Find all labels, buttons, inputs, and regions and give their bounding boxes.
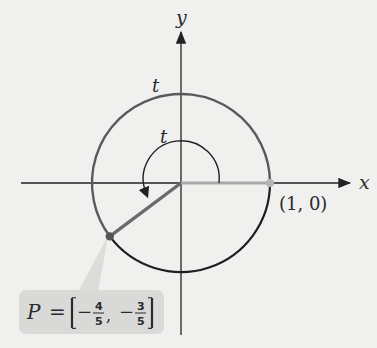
start-point-label: (1, 0) [279, 193, 327, 214]
x-axis-label: x [359, 171, 370, 193]
y-minus: − [119, 301, 134, 322]
y-denominator: 5 [137, 315, 145, 328]
point-P-dot [106, 232, 114, 240]
point-P-callout: P = − 4 5 , − 3 5 [19, 290, 164, 334]
x-numerator: 4 [95, 300, 103, 313]
angle-label-t: t [160, 126, 168, 147]
y-numerator: 3 [137, 300, 145, 313]
equals-sign: = [49, 300, 66, 324]
y-axis-label: y [175, 6, 187, 28]
x-minus: − [77, 301, 92, 322]
point-P-name: P [26, 300, 41, 324]
callout-pointer [78, 236, 108, 292]
start-point-dot [266, 179, 274, 187]
x-denominator: 5 [95, 315, 103, 328]
comma: , [106, 306, 111, 325]
arc-label-t: t [152, 75, 160, 96]
circle-arc-remaining [110, 183, 270, 272]
